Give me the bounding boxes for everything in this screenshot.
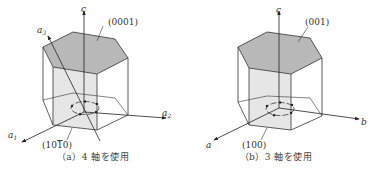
side-face-10-10 (53, 67, 97, 130)
figure-a-four-axis: (0001) (1010) c a1 a2 a3 （a）4 軸を使用 (0, 0, 186, 178)
hexagonal-prism-diagram-four-axis: (0001) (1010) c a1 a2 a3 (0, 0, 186, 150)
figure-b-caption: （b）3 軸を使用 (183, 150, 369, 163)
c-axis-label: c (276, 5, 281, 15)
side-face-label: (100) (242, 140, 266, 150)
figure-b-three-axis: (001) (100) c a b （b）3 軸を使用 (183, 0, 369, 178)
c-axis-label: c (81, 4, 86, 14)
side-face-100 (249, 68, 291, 130)
hexagonal-prism-diagram-three-axis: (001) (100) c a b (183, 0, 373, 150)
side-face-label: (1010) (42, 140, 72, 150)
a2-axis-label: a2 (162, 108, 171, 119)
b-axis-label: b (361, 117, 367, 127)
top-face-label: (001) (305, 17, 329, 27)
top-face-0001 (43, 32, 128, 74)
a3-axis-label: a3 (37, 25, 46, 36)
side-face-leader (261, 128, 267, 140)
figure-a-caption: （a）4 軸を使用 (0, 150, 186, 163)
side-face-leader (67, 128, 72, 140)
a-axis-label: a (206, 140, 211, 150)
top-face-label: (0001) (108, 17, 138, 27)
top-face-001 (238, 32, 322, 74)
a1-axis-label: a1 (8, 130, 17, 141)
